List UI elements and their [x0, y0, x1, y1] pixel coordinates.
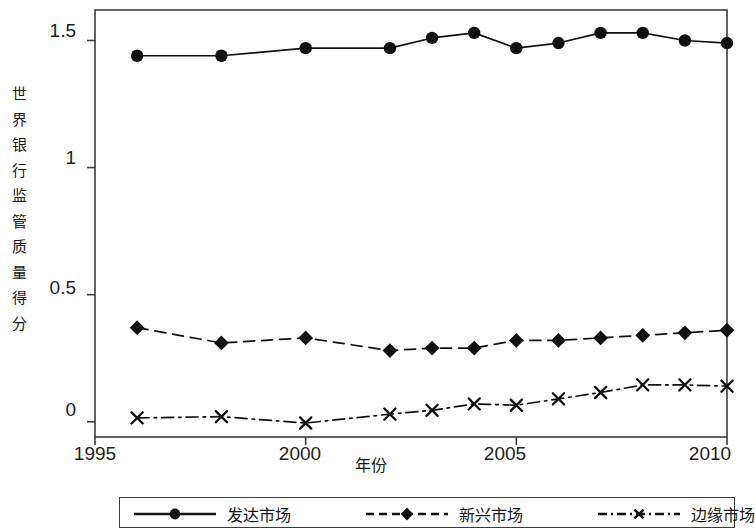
data-point-diamond [677, 325, 692, 340]
legend-marker-diamond-dashed-icon [364, 506, 450, 522]
plot-frame [95, 10, 727, 437]
series-3 [132, 379, 733, 428]
data-point-circle [679, 34, 691, 46]
data-point-circle [426, 32, 438, 44]
legend-label-emerging: 新兴市场 [459, 502, 523, 526]
data-point-circle [468, 27, 480, 39]
data-point-diamond [593, 330, 608, 345]
data-point-diamond [635, 328, 650, 343]
data-point-circle [552, 37, 564, 49]
legend-item-developed[interactable]: 发达市场 [132, 498, 291, 528]
data-point-circle [299, 42, 311, 54]
series-2 [130, 320, 735, 358]
data-point-circle [721, 37, 733, 49]
legend-item-frontier[interactable]: 边缘市场 [596, 498, 755, 528]
legend-label-frontier: 边缘市场 [691, 502, 755, 526]
data-point-circle [131, 50, 143, 62]
data-point-circle [637, 27, 649, 39]
data-point-diamond [551, 333, 566, 348]
legend-marker-circle-solid-icon [132, 506, 218, 522]
data-point-circle [384, 42, 396, 54]
data-point-circle [594, 27, 606, 39]
data-point-diamond [720, 323, 735, 338]
data-point-circle [510, 42, 522, 54]
data-point-diamond [298, 330, 313, 345]
data-point-diamond [130, 320, 145, 335]
legend: 发达市场 新兴市场 边缘市场 [119, 497, 735, 528]
data-point-diamond [383, 343, 398, 358]
data-point-diamond [509, 333, 524, 348]
legend-marker-x-dashdot-icon [596, 506, 682, 522]
legend-item-emerging[interactable]: 新兴市场 [364, 498, 523, 528]
data-point-diamond [214, 336, 229, 351]
data-point-x [637, 379, 648, 390]
data-point-diamond [467, 341, 482, 356]
legend-label-developed: 发达市场 [227, 502, 291, 526]
data-point-diamond [425, 341, 440, 356]
data-point-circle [215, 50, 227, 62]
plot-area [0, 0, 742, 470]
series-1 [131, 27, 733, 62]
